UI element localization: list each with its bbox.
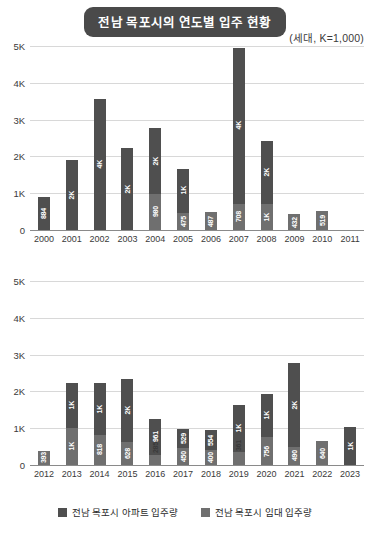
bar-value-label: 884 xyxy=(40,208,47,219)
chart-bottom-bars: 3931K1K1K8182K6289612855294505544001K361… xyxy=(30,281,364,465)
bar-segment-apartment-2020[interactable]: 1K xyxy=(261,394,273,437)
bar-segment-apartment-2007[interactable]: 4K xyxy=(233,48,245,204)
bar-value-label: 432 xyxy=(291,217,298,228)
bar-2000[interactable]: 884 xyxy=(38,197,50,230)
bar-segment-apartment-2001[interactable]: 2K xyxy=(66,160,78,230)
bar-value-label: 490 xyxy=(291,450,298,461)
bar-segment-rental-2012[interactable]: 393 xyxy=(38,451,50,465)
bar-2013[interactable]: 1K1K xyxy=(66,383,78,465)
x-axis-tick-2021: 2021 xyxy=(284,469,304,479)
bar-segment-apartment-2018[interactable]: 554 xyxy=(205,430,217,450)
bar-2010[interactable]: 519 xyxy=(316,211,328,230)
y-axis-tick-label: 3K xyxy=(13,114,25,125)
x-axis-tick-2010: 2010 xyxy=(312,234,332,244)
bar-2017[interactable]: 529450 xyxy=(177,429,189,465)
y-axis-tick-label: 3K xyxy=(13,349,25,360)
bar-segment-rental-2019[interactable]: 361 xyxy=(233,452,245,465)
bar-value-label: 2K xyxy=(68,191,75,200)
bar-segment-rental-2016[interactable]: 285 xyxy=(149,455,161,465)
bar-2021[interactable]: 2K490 xyxy=(288,363,300,465)
bar-segment-rental-2009[interactable]: 432 xyxy=(288,214,300,230)
y-axis-tick-label: 5K xyxy=(13,276,25,287)
legend-label: 전남 목포시 임대 입주량 xyxy=(215,505,313,519)
bar-2006[interactable]: 487 xyxy=(205,212,217,230)
bar-value-label: 640 xyxy=(319,448,326,459)
bar-value-label: 2K xyxy=(124,185,131,194)
bar-segment-rental-2005[interactable]: 475 xyxy=(177,213,189,230)
bar-2009[interactable]: 432 xyxy=(288,214,300,230)
chart-bottom-plot-area: 5K4K3K2K1K0 3931K1K1K8182K62896128552945… xyxy=(30,281,364,465)
bar-segment-apartment-2017[interactable]: 529 xyxy=(177,429,189,448)
x-axis-tick-2005: 2005 xyxy=(173,234,193,244)
page-title: 전남 목포시의 연도별 입주 현황 xyxy=(84,7,285,37)
bar-2004[interactable]: 2K980 xyxy=(149,128,161,230)
bar-value-label: 475 xyxy=(180,216,187,227)
bar-segment-rental-2015[interactable]: 628 xyxy=(121,442,133,465)
bar-segment-rental-2017[interactable]: 450 xyxy=(177,448,189,465)
bar-value-label: 961 xyxy=(152,431,159,442)
bar-segment-rental-2021[interactable]: 490 xyxy=(288,447,300,465)
y-axis-tick-label: 4K xyxy=(13,312,25,323)
legend-item-rental[interactable]: 전남 목포시 임대 입주량 xyxy=(201,505,313,519)
bar-segment-apartment-2021[interactable]: 2K xyxy=(288,363,300,447)
bar-segment-rental-2018[interactable]: 400 xyxy=(205,450,217,465)
y-axis-tick-label: 0 xyxy=(20,460,25,471)
bar-segment-apartment-2004[interactable]: 2K xyxy=(149,128,161,194)
bar-segment-apartment-2008[interactable]: 2K xyxy=(261,141,273,204)
chart-top: 5K4K3K2K1K0 8842K4K2K2K9801K4754874K7082… xyxy=(0,46,370,252)
bar-value-label: 1K xyxy=(96,405,103,414)
bar-segment-rental-2007[interactable]: 708 xyxy=(233,204,245,230)
bar-segment-apartment-2019[interactable]: 1K xyxy=(233,405,245,451)
x-axis-tick-2008: 2008 xyxy=(257,234,277,244)
bar-2018[interactable]: 554400 xyxy=(205,430,217,465)
bar-2022[interactable]: 640 xyxy=(316,441,328,465)
bar-value-label: 818 xyxy=(96,444,103,455)
legend-label: 전남 목포시 아파트 입주량 xyxy=(72,505,179,519)
bar-segment-rental-2004[interactable]: 980 xyxy=(149,194,161,230)
bar-segment-apartment-2002[interactable]: 4K xyxy=(94,99,106,230)
bar-segment-apartment-2015[interactable]: 2K xyxy=(121,379,133,442)
bar-value-label: 1K xyxy=(263,411,270,420)
bar-2014[interactable]: 1K818 xyxy=(94,383,106,465)
x-axis-tick-2001: 2001 xyxy=(62,234,82,244)
chart-bottom-x-axis-labels: 2012201320142015201620172018201920202021… xyxy=(30,467,364,485)
bar-segment-rental-2010[interactable]: 519 xyxy=(316,211,328,230)
bar-2007[interactable]: 4K708 xyxy=(233,48,245,230)
x-axis-tick-2011: 2011 xyxy=(340,234,359,244)
y-axis-tick-label: 2K xyxy=(13,386,25,397)
y-axis-tick-label: 1K xyxy=(13,188,25,199)
bar-2016[interactable]: 961285 xyxy=(149,419,161,465)
bar-2015[interactable]: 2K628 xyxy=(121,379,133,465)
bar-segment-rental-2020[interactable]: 756 xyxy=(261,437,273,465)
bar-segment-rental-2014[interactable]: 818 xyxy=(94,435,106,465)
bar-segment-rental-2022[interactable]: 640 xyxy=(316,441,328,465)
bar-segment-rental-2008[interactable]: 1K xyxy=(261,204,273,230)
bar-2020[interactable]: 1K756 xyxy=(261,394,273,465)
bar-segment-apartment-2016[interactable]: 961 xyxy=(149,419,161,454)
bar-2023[interactable]: 1K xyxy=(344,427,356,465)
bar-segment-apartment-2014[interactable]: 1K xyxy=(94,383,106,435)
bar-segment-apartment-2000[interactable]: 884 xyxy=(38,197,50,230)
bar-2008[interactable]: 2K1K xyxy=(261,141,273,230)
bar-2003[interactable]: 2K xyxy=(121,148,133,230)
bar-2019[interactable]: 1K361 xyxy=(233,405,245,465)
bar-value-label: 1K xyxy=(263,213,270,222)
bar-2002[interactable]: 4K xyxy=(94,99,106,230)
bar-segment-apartment-2013[interactable]: 1K xyxy=(66,383,78,428)
bar-segment-apartment-2005[interactable]: 1K xyxy=(177,169,189,213)
chart-page: 전남 목포시의 연도별 입주 현황 (세대, K=1,000) 5K4K3K2K… xyxy=(0,0,370,541)
x-axis-tick-2022: 2022 xyxy=(312,469,332,479)
bar-segment-rental-2013[interactable]: 1K xyxy=(66,428,78,465)
bar-value-label: 2K xyxy=(291,401,298,410)
bar-value-label: 1K xyxy=(347,442,354,451)
bar-segment-rental-2006[interactable]: 487 xyxy=(205,212,217,230)
x-axis-tick-2004: 2004 xyxy=(145,234,165,244)
bar-value-label: 2K xyxy=(152,157,159,166)
legend-item-apartment[interactable]: 전남 목포시 아파트 입주량 xyxy=(58,505,179,519)
bar-segment-apartment-2003[interactable]: 2K xyxy=(121,148,133,230)
bar-2005[interactable]: 1K475 xyxy=(177,169,189,230)
bar-2012[interactable]: 393 xyxy=(38,451,50,465)
bar-2001[interactable]: 2K xyxy=(66,160,78,230)
bar-segment-apartment-2023[interactable]: 1K xyxy=(344,427,356,465)
bar-value-label: 628 xyxy=(124,448,131,459)
